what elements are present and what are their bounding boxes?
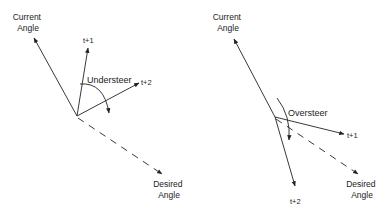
oversteer-label: Oversteer [288, 108, 328, 118]
t1-arrow [275, 117, 344, 134]
current-angle-label: Current Angle [13, 12, 44, 33]
t2-arrow [77, 83, 139, 116]
t1-label: t+1 [347, 131, 358, 140]
t2-label: t+2 [141, 78, 152, 87]
desired-angle-label: Desired Angle [153, 179, 185, 200]
understeer-arc-arrow [80, 84, 109, 113]
oversteer-diagram: Current Angle t+1 t+2 Oversteer Desired … [213, 12, 378, 206]
current-angle-label: Current Angle [213, 12, 244, 33]
desired-angle-dashed-arrow [78, 118, 162, 174]
desired-angle-label: Desired Angle [346, 179, 378, 200]
t2-label: t+2 [290, 197, 301, 206]
current-angle-arrow [34, 38, 77, 116]
steering-diagram: Current Angle t+1 t+2 Understeer Desired… [0, 0, 392, 209]
current-angle-arrow [234, 39, 275, 117]
t1-label: t+1 [83, 36, 94, 45]
understeer-label: Understeer [87, 75, 132, 85]
understeer-diagram: Current Angle t+1 t+2 Understeer Desired… [13, 12, 185, 200]
t2-arrow [275, 117, 295, 186]
